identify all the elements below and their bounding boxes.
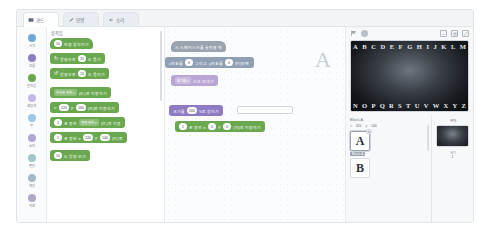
brush-icon: [68, 17, 74, 23]
tab-bar: 코드 모양 소리: [17, 10, 473, 27]
object-thumbnail-a[interactable]: A x: [350, 131, 370, 151]
palette-block-glide-to[interactable]: 1 초 동안 현재 위치▾ (으)로 이동: [50, 117, 125, 128]
block-value-input[interactable]: 10: [54, 152, 62, 159]
category-looks[interactable]: 생김새: [17, 91, 46, 111]
block-value-seconds[interactable]: 1: [54, 119, 62, 126]
category-judge[interactable]: 판단: [17, 151, 46, 171]
block-palette[interactable]: 움직임 10 만큼 움직이기 ↻ 방향으로 15 도 돌기 ↺ 방향으로 15 …: [47, 27, 165, 222]
stage-thumbnail[interactable]: [436, 125, 469, 147]
coord-y-value[interactable]: 140: [371, 124, 377, 128]
category-sidebar[interactable]: 시작 흐름 움직임 생김새 붓 소리: [17, 27, 47, 222]
tab-sound[interactable]: 소리: [103, 12, 139, 27]
stage-letter: Q: [380, 102, 385, 109]
code-workspace[interactable]: A 시 스페이스키를 눌렀을 때 x좌표를 6 그리고 y좌표를 0 (이)라면…: [165, 27, 345, 222]
block-value-input[interactable]: 10: [54, 40, 62, 47]
app-frame: 코드 모양 소리 시작: [16, 9, 474, 223]
block-value-x[interactable]: 220: [59, 104, 69, 111]
block-label: 초 동안: [64, 120, 77, 126]
stage-letter: P: [371, 102, 375, 109]
block-label: (으)로 이동하기: [88, 105, 116, 111]
block-label: y:: [218, 124, 221, 129]
category-label: 자료: [29, 203, 35, 208]
block-label: 도 돌리기: [88, 71, 105, 77]
stage-toolbar: ↔ ▤ ⤢: [346, 27, 473, 40]
stage-letter: F: [399, 43, 403, 50]
block-dropdown[interactable]: 무작위 위치▾: [54, 89, 77, 96]
stage-letter: A: [353, 43, 358, 50]
palette-block-goto-random[interactable]: 무작위 위치▾ (으)로 이동하기: [50, 87, 111, 98]
workspace-block-when-key-pressed[interactable]: 시 스페이스키를 눌렀을 때: [171, 41, 226, 52]
block-value-y[interactable]: 0: [223, 123, 231, 130]
rotate-ccw-icon: ↺: [54, 71, 58, 76]
block-value-y[interactable]: 140: [76, 104, 86, 111]
object-name-a: Block-A: [350, 152, 365, 156]
stage-canvas[interactable]: A B C D E F G H I J K L M N O P: [350, 40, 469, 112]
block-value-size[interactable]: 200: [187, 107, 197, 114]
category-label: 붓: [30, 123, 33, 128]
tab-code[interactable]: 코드: [23, 12, 59, 27]
category-flow[interactable]: 흐름: [17, 51, 46, 71]
block-value-y[interactable]: 0: [225, 59, 233, 66]
chevron-down-icon: ▾: [187, 79, 189, 83]
palette-block-rotate-cw[interactable]: ↻ 방향으로 15 도 돌기: [50, 53, 105, 64]
category-move[interactable]: 움직임: [17, 71, 46, 91]
workspace-block-compare-coords[interactable]: x좌표를 6 그리고 y좌표를 0 (이)라면: [165, 57, 254, 68]
palette-block-move-steps[interactable]: 10 만큼 움직이기: [50, 38, 93, 49]
block-value-y[interactable]: 140: [100, 134, 110, 141]
grid-icon[interactable]: ▤: [451, 30, 458, 37]
block-label: 만큼 움직이기: [64, 41, 89, 47]
block-label: 크기를: [173, 108, 185, 114]
category-calc[interactable]: 계산: [17, 171, 46, 191]
stage-letter: B: [362, 43, 366, 50]
workspace-block-glide-xy[interactable]: 1 초 동안 x: 0 y: 0 (으)로 이동하기: [175, 121, 265, 132]
workspace-text-input[interactable]: [237, 106, 293, 114]
block-value-seconds[interactable]: 1: [179, 123, 187, 130]
category-start[interactable]: 시작: [17, 31, 46, 51]
palette-block-glide-xy[interactable]: 1 초 동안 x: 220 y: 140 (으)로: [50, 132, 127, 143]
category-data[interactable]: 자료: [17, 191, 46, 211]
category-brush[interactable]: 붓: [17, 111, 46, 131]
object-thumbnail-b[interactable]: B: [350, 158, 370, 178]
fullscreen-width-icon[interactable]: ↔: [440, 30, 447, 37]
inspector-value[interactable]: 1: [436, 155, 469, 159]
coord-x-value[interactable]: 220: [356, 124, 362, 128]
tab-shape-label: 모양: [76, 17, 84, 23]
stage-letter: V: [424, 102, 429, 109]
stage-letter: W: [433, 102, 440, 109]
block-value-x[interactable]: 0: [208, 123, 216, 130]
stage-letter: G: [407, 43, 412, 50]
block-label: (으)로 이동하기: [233, 124, 261, 130]
stop-icon[interactable]: [361, 30, 368, 37]
block-dropdown[interactable]: 초기화▾: [175, 77, 191, 84]
block-value-x[interactable]: 6: [185, 59, 193, 66]
tab-shape[interactable]: 모양: [63, 12, 99, 27]
block-label: 초 동안 x:: [64, 135, 81, 141]
green-flag-icon[interactable]: [350, 30, 357, 37]
block-label: (으)로: [112, 135, 123, 141]
block-label: x좌표를: [169, 60, 183, 66]
stage-letter: S: [398, 102, 402, 109]
object-list[interactable]: Block-A x 220 y 140 A x Block-A B: [346, 115, 432, 222]
dropdown-label: 무작위 위치: [56, 90, 72, 95]
block-value-x[interactable]: 220: [83, 134, 93, 141]
category-label: 시작: [29, 43, 35, 48]
close-icon[interactable]: x: [366, 129, 372, 135]
block-value-seconds[interactable]: 1: [54, 134, 62, 141]
palette-scrollbar[interactable]: [160, 31, 162, 101]
block-value-input[interactable]: 15: [78, 55, 86, 62]
object-list-scrollbar[interactable]: [427, 125, 429, 151]
block-label: %로 정하기: [199, 108, 220, 114]
workspace-block-set-size[interactable]: 크기를 200 %로 정하기: [169, 105, 223, 116]
block-label: x:: [54, 105, 57, 110]
tab-code-label: 코드: [36, 17, 44, 23]
palette-block-point-direction[interactable]: 10 도 방향 보기: [50, 150, 90, 161]
palette-block-goto-xy[interactable]: x: 220 y: 140 (으)로 이동하기: [50, 102, 119, 113]
palette-block-rotate-ccw[interactable]: ↺ 방향으로 15 도 돌리기: [50, 68, 109, 79]
category-sound[interactable]: 소리: [17, 131, 46, 151]
stage-letter: M: [460, 43, 466, 50]
expand-icon[interactable]: ⤢: [462, 30, 469, 37]
workspace-block-broadcast[interactable]: 초기화▾ 신호 보내기: [171, 75, 218, 86]
block-dropdown[interactable]: 현재 위치▾: [79, 119, 99, 126]
category-label: 판단: [29, 163, 35, 168]
block-value-input[interactable]: 15: [78, 70, 86, 77]
